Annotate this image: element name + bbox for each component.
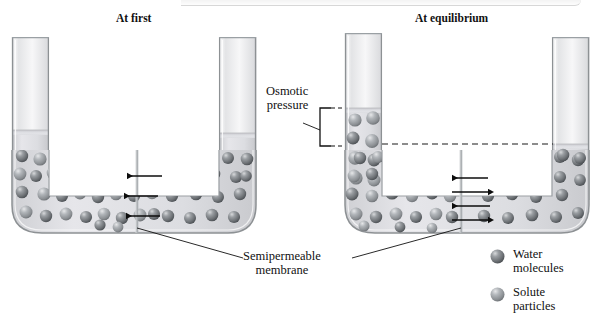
label-semipermeable-membrane: Semipermeable membrane [243,249,321,277]
semipermeable-membrane-at-first [136,150,137,233]
legend-water-line2: molecules [513,261,564,275]
label-membrane-line1: Semipermeable [243,249,321,263]
osmotic-pressure-bracket [303,108,345,146]
sphere-dark-icon [489,248,506,265]
legend-item-solute: Solute particles [489,285,597,313]
legend-label-water: Water molecules [513,247,564,275]
label-osmotic-pressure-line1: Osmotic [266,84,308,98]
leader-osmotic-pressure [303,123,320,130]
apparatus-at-first [12,37,256,258]
legend-solute-line2: particles [513,299,555,313]
panel-title-at-first: At first [116,12,151,24]
sphere-light-icon [489,286,506,303]
legend: Water molecules Solute particles [489,247,597,323]
apparatus-at-equilibrium [345,33,589,258]
legend-item-water: Water molecules [489,247,597,275]
figure-stage: At first At equilibrium Osmotic pressure… [0,0,599,328]
label-osmotic-pressure-line2: pressure [266,98,308,112]
legend-water-line1: Water [513,247,564,261]
label-membrane-line2: membrane [243,263,321,277]
panel-title-at-equilibrium: At equilibrium [415,12,488,24]
label-osmotic-pressure: Osmotic pressure [266,84,308,112]
legend-label-solute: Solute particles [513,285,555,313]
legend-solute-line1: Solute [513,285,555,299]
